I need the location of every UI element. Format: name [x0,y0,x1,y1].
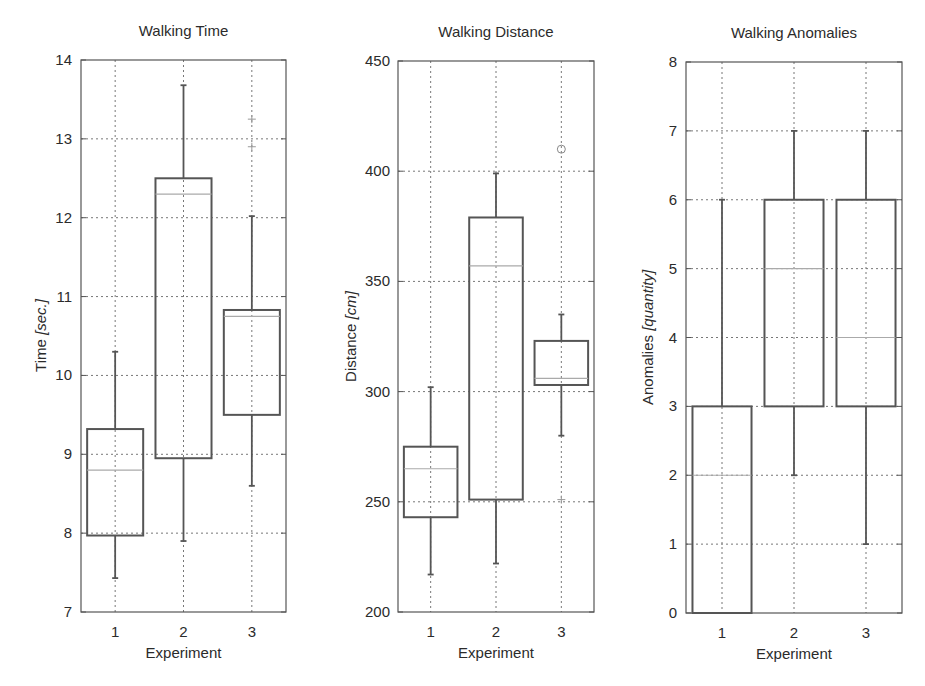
y-axis-label: Anomalies [quantity] [639,237,656,437]
plot-area [0,0,925,686]
y-tick-label: 8 [637,53,677,70]
y-tick-label: 0 [637,604,677,621]
x-tick-label: 1 [712,624,732,641]
y-tick-label: 6 [637,191,677,208]
box-experiment-3 [836,131,895,544]
y-tick-label: 1 [637,535,677,552]
y-tick-label: 2 [637,466,677,483]
y-axis-label-text: Anomalies [639,335,656,405]
x-tick-label: 3 [856,624,876,641]
x-axis-label: Experiment [686,645,902,662]
y-axis-label-unit: [quantity] [639,269,656,330]
y-tick-label: 7 [637,122,677,139]
box-experiment-1 [692,200,751,613]
x-tick-label: 2 [784,624,804,641]
